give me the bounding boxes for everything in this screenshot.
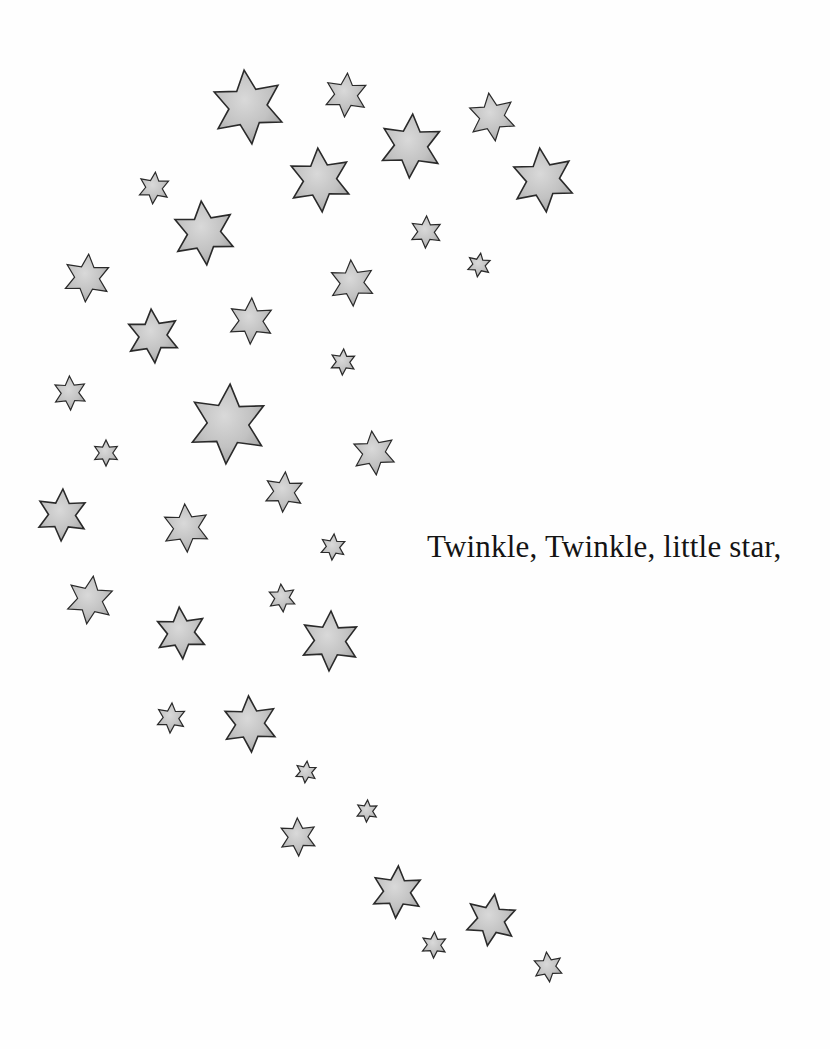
book-page: Twinkle, Twinkle, little star, [0,0,830,1049]
star-icon [269,584,294,612]
star-icon [225,696,275,752]
star-icon [65,254,108,302]
star-icon [514,148,572,212]
star-icon [214,70,282,144]
star-icon [296,761,316,783]
star-icon [332,260,373,306]
star-icon [281,818,315,856]
star-icon [231,298,272,344]
star-icon [165,504,208,552]
star-icon [357,800,377,822]
stars-group [39,70,572,982]
star-icon [291,148,349,212]
star-icon [423,932,446,958]
star-icon [470,93,515,141]
verse-text: Twinkle, Twinkle, little star, [427,529,782,565]
star-icon [95,440,118,466]
star-icon [158,703,185,733]
star-icon [175,201,233,265]
star-icon [412,216,440,248]
star-icon [321,534,345,560]
star-icon [326,73,366,117]
star-icon [534,952,561,982]
star-field-illustration [0,0,830,1049]
star-icon [158,607,205,659]
star-icon [140,172,169,204]
star-icon [55,376,85,410]
star-icon [383,114,440,178]
star-icon [68,576,113,624]
star-icon [468,253,490,277]
star-icon [374,866,420,918]
star-icon [304,611,357,671]
star-icon [467,894,515,945]
star-icon [354,431,394,475]
star-icon [331,349,354,375]
star-icon [39,489,85,541]
star-icon [129,309,178,363]
star-icon [192,384,263,464]
star-icon [266,472,302,512]
